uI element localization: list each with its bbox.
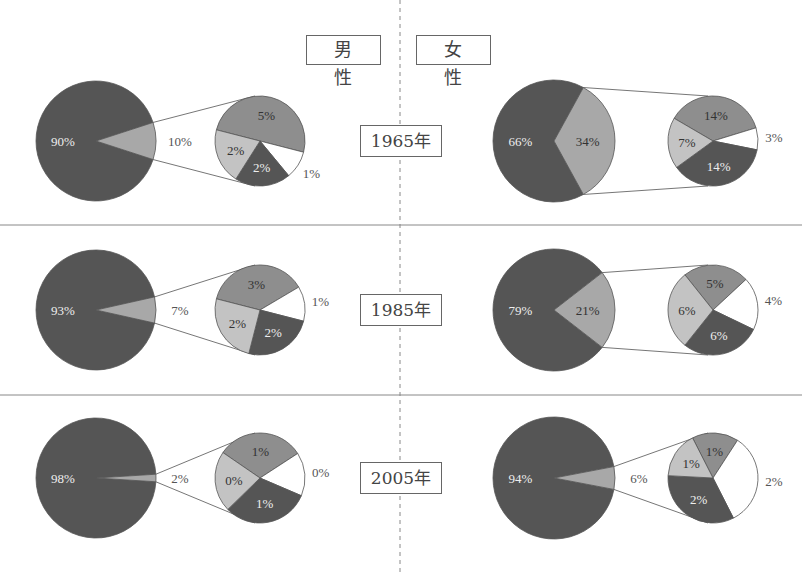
exploded-slice-label: 21%: [576, 303, 600, 318]
exploded-slice-label: 6%: [630, 471, 648, 486]
year-label-1985: 1985年: [360, 294, 442, 326]
breakdown-label-3: 2%: [227, 143, 245, 158]
breakdown-label-1: 1%: [312, 294, 330, 309]
pie-female-1985年: 79%21%5%4%6%6%: [493, 249, 782, 371]
header-male: 男 性: [306, 35, 381, 65]
breakdown-label-1: 1%: [303, 166, 321, 181]
breakdown-label-1: 0%: [312, 465, 330, 480]
breakdown-label-0: 14%: [704, 108, 728, 123]
main-slice-label: 94%: [509, 471, 533, 486]
breakdown-label-3: 7%: [678, 135, 696, 150]
breakdown-label-2: 1%: [256, 496, 274, 511]
year-label-1965: 1965年: [360, 125, 442, 157]
breakdown-label-2: 2%: [265, 325, 283, 340]
exploded-slice-label: 2%: [171, 471, 189, 486]
pie-female-2005年: 94%6%1%2%2%1%: [493, 417, 783, 539]
breakdown-label-3: 2%: [229, 316, 247, 331]
breakdown-label-3: 0%: [225, 473, 243, 488]
main-slice-label: 93%: [51, 303, 75, 318]
breakdown-label-0: 5%: [706, 276, 724, 291]
breakdown-label-3: 6%: [678, 303, 696, 318]
main-slice-label: 79%: [509, 303, 533, 318]
main-slice-label: 98%: [51, 471, 75, 486]
breakdown-label-2: 14%: [707, 159, 731, 174]
breakdown-label-0: 5%: [258, 108, 276, 123]
connector-line-bottom: [583, 186, 708, 194]
breakdown-label-1: 4%: [765, 293, 783, 308]
breakdown-label-0: 1%: [252, 444, 270, 459]
connector-line-top: [583, 88, 708, 96]
exploded-slice-label: 34%: [576, 134, 600, 149]
pie-male-1985年: 93%7%3%1%2%2%: [36, 250, 329, 370]
breakdown-label-0: 1%: [706, 444, 724, 459]
pie-female-1965年: 66%34%14%3%14%7%: [493, 80, 783, 202]
breakdown-label-1: 2%: [765, 474, 783, 489]
exploded-slice-label: 7%: [171, 303, 189, 318]
breakdown-label-3: 1%: [682, 456, 700, 471]
main-slice-label: 90%: [51, 134, 75, 149]
breakdown-label-2: 2%: [690, 492, 708, 507]
breakdown-label-1: 3%: [765, 130, 783, 145]
pie-male-2005年: 98%2%1%0%1%0%: [36, 418, 330, 538]
year-label-2005: 2005年: [360, 462, 442, 494]
header-female: 女 性: [416, 35, 491, 65]
pie-male-1965年: 90%10%5%1%2%2%: [36, 81, 320, 201]
breakdown-label-2: 6%: [710, 328, 728, 343]
breakdown-label-2: 2%: [253, 160, 271, 175]
main-slice-label: 66%: [509, 134, 533, 149]
exploded-slice-label: 10%: [168, 134, 192, 149]
breakdown-label-0: 3%: [248, 277, 266, 292]
